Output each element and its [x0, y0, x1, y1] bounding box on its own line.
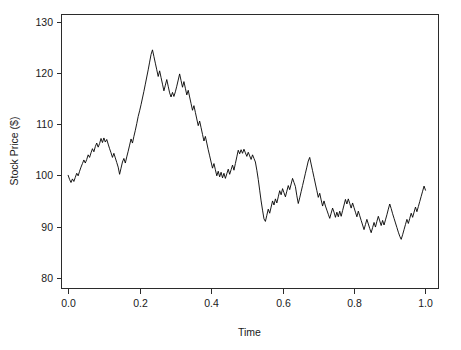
y-tick-label: 80 — [41, 272, 53, 284]
y-tick-label: 120 — [35, 67, 53, 79]
x-tick-label: 0.4 — [204, 297, 219, 309]
chart-figure: 80901001101201300.00.20.40.60.81.0TimeSt… — [0, 0, 461, 350]
x-tick-label: 0.2 — [133, 297, 148, 309]
x-tick-label: 0.6 — [276, 297, 291, 309]
x-tick-label: 1.0 — [418, 297, 433, 309]
y-axis-title: Stock Price ($) — [8, 117, 20, 186]
y-tick-label: 130 — [35, 16, 53, 28]
y-tick-label: 90 — [41, 221, 53, 233]
y-tick-label: 110 — [36, 118, 53, 130]
y-tick-label: 100 — [35, 169, 53, 181]
x-tick-label: 0.8 — [347, 297, 362, 309]
stock-price-line-chart: 80901001101201300.00.20.40.60.81.0TimeSt… — [0, 0, 461, 350]
x-tick-label: 0.0 — [61, 297, 76, 309]
x-axis-title: Time — [238, 326, 261, 338]
